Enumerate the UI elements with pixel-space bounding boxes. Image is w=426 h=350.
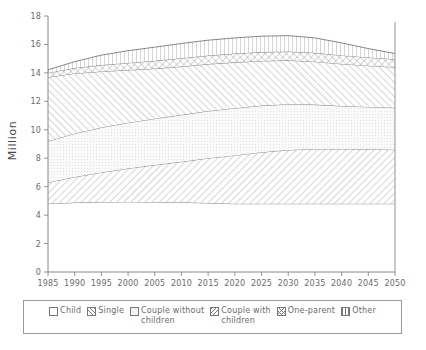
y-tick-label: 8 xyxy=(36,154,41,163)
legend-item-single[interactable]: Single xyxy=(87,306,124,316)
legend-swatch-icon xyxy=(210,307,219,316)
legend-swatch-icon xyxy=(341,307,350,316)
x-tick-label: 2025 xyxy=(251,279,272,288)
legend-item-label: Couple with children xyxy=(221,306,271,326)
y-tick-label: 12 xyxy=(30,97,41,106)
legend-item-label: One-parent xyxy=(288,306,335,316)
x-tick-label: 2010 xyxy=(171,279,192,288)
chart-figure: Million xyxy=(0,0,426,350)
y-tick-label: 16 xyxy=(30,40,41,49)
stacked-area-chart: 0246810121416181985199019952000200520102… xyxy=(0,0,426,292)
x-tick-label: 2020 xyxy=(224,279,245,288)
legend-swatch-icon xyxy=(49,307,58,316)
legend-item-label: Other xyxy=(352,306,376,316)
y-tick-label: 14 xyxy=(30,69,41,78)
y-tick-label: 6 xyxy=(36,183,41,192)
chart-plot-area: Million xyxy=(0,0,426,292)
legend-item-label: Couple without children xyxy=(141,306,204,326)
y-tick-label: 10 xyxy=(30,126,41,135)
y-tick-label: 0 xyxy=(36,268,41,277)
legend-item-couple-without[interactable]: Couple without children xyxy=(130,306,204,326)
legend-item-couple-with[interactable]: Couple with children xyxy=(210,306,271,326)
y-tick-label: 2 xyxy=(36,240,41,249)
stacked-bands xyxy=(48,36,395,272)
x-tick-label: 2000 xyxy=(117,279,138,288)
legend-swatch-icon xyxy=(87,307,96,316)
y-tick-label: 18 xyxy=(30,12,41,21)
legend-item-label: Child xyxy=(60,306,81,316)
x-tick-label: 2015 xyxy=(198,279,219,288)
x-tick-label: 2050 xyxy=(384,279,405,288)
x-tick-label: 2045 xyxy=(358,279,379,288)
x-tick-label: 2040 xyxy=(331,279,352,288)
legend-swatch-icon xyxy=(130,307,139,316)
x-tick-label: 1985 xyxy=(37,279,58,288)
legend-items: ChildSingleCouple without childrenCouple… xyxy=(24,301,401,333)
area-band-child xyxy=(48,202,395,272)
legend-item-one-parent[interactable]: One-parent xyxy=(277,306,335,316)
x-tick-label: 2035 xyxy=(304,279,325,288)
chart-legend: ChildSingleCouple without childrenCouple… xyxy=(23,300,402,334)
y-tick-label: 4 xyxy=(36,211,41,220)
x-tick-label: 2005 xyxy=(144,279,165,288)
legend-item-label: Single xyxy=(98,306,124,316)
x-tick-label: 1990 xyxy=(64,279,85,288)
legend-item-other[interactable]: Other xyxy=(341,306,376,316)
x-tick-label: 2030 xyxy=(278,279,299,288)
figure-caption xyxy=(32,339,418,350)
legend-item-child[interactable]: Child xyxy=(49,306,81,316)
legend-swatch-icon xyxy=(277,307,286,316)
x-tick-label: 1995 xyxy=(91,279,112,288)
